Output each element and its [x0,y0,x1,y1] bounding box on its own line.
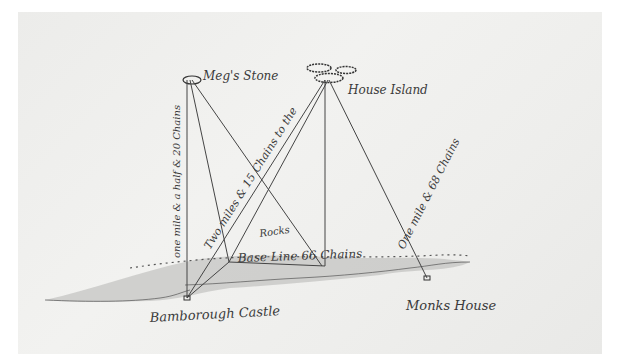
island-2 [336,67,356,74]
label-house-island: House Island [347,83,428,97]
island-1 [307,64,331,72]
label-bamborough-castle: Bamborough Castle [148,303,280,325]
label-rocks: Rocks [258,224,291,239]
label-castle-to-megs-stone: one mile & a half & 20 Chains [171,105,182,258]
label-megs-stone: Meg's Stone [202,69,278,83]
house-island-marker [315,74,343,83]
label-monks-house: Monks House [405,298,496,313]
survey-diagram: Meg's Stone House Island Bamborough Cast… [0,0,623,364]
label-house-island-to-monks-house: One mile & 68 Chains [395,136,462,252]
